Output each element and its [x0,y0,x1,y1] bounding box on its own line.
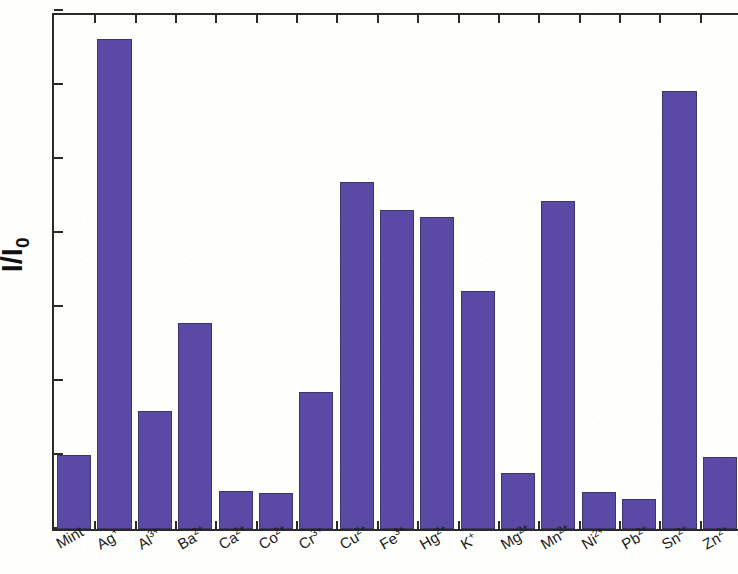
x-axis-tick [659,521,661,529]
x-axis-tick-top [377,15,379,23]
plot-area [52,13,738,531]
x-axis-tick [498,521,500,529]
y-axis-label-text: I/I [0,248,28,272]
bar [57,455,91,529]
x-axis-tick-top [94,15,96,23]
x-axis-tick [215,521,217,529]
bar [380,210,414,529]
x-axis-tick-top [579,15,581,23]
bar [461,291,495,529]
x-axis-tick-top [135,15,137,23]
y-axis-tick [54,379,63,381]
y-axis-tick [54,83,63,85]
y-axis-tick [54,9,63,11]
x-axis-tick-top [538,15,540,23]
bar [219,491,253,529]
bar [420,217,454,529]
x-axis-tick-top [215,15,217,23]
y-axis-tick [54,305,63,307]
x-axis-tick [700,521,702,529]
x-axis-tick [336,521,338,529]
x-axis-tick-top [700,15,702,23]
bar [703,457,737,529]
bar [97,39,131,529]
x-axis-tick [175,521,177,529]
y-axis-tick [54,157,63,159]
bar [138,411,172,529]
bar [178,323,212,529]
x-axis-tick [256,521,258,529]
bar [501,473,535,529]
x-axis-tick-label: K+ [457,529,480,553]
y-axis-label: I/I0 [0,220,34,290]
x-axis-tick-top [296,15,298,23]
x-axis-tick-top [619,15,621,23]
bar [662,91,696,529]
x-axis-tick-top [498,15,500,23]
x-axis-tick [458,521,460,529]
y-axis-label-subscript: 0 [12,238,33,249]
x-axis-tick [296,521,298,529]
x-axis-tick [135,521,137,529]
x-axis-tick-top [458,15,460,23]
x-axis-tick [579,521,581,529]
bar [582,492,616,529]
x-axis-tick-top [175,15,177,23]
x-axis-tick-top [417,15,419,23]
x-axis-tick-top [659,15,661,23]
bar [299,392,333,529]
x-axis-tick [94,521,96,529]
x-axis-tick [538,521,540,529]
x-axis-tick [417,521,419,529]
y-axis-tick [54,231,63,233]
x-axis-tick-top [256,15,258,23]
x-axis-tick [377,521,379,529]
x-axis-tick [619,521,621,529]
x-axis-tick-top [336,15,338,23]
bar [340,182,374,529]
bar-chart-figure: I/I0 01234567 MintAg+Al3+Ba2+Ca2+Co2+Cr3… [0,0,738,574]
bar [541,201,575,529]
